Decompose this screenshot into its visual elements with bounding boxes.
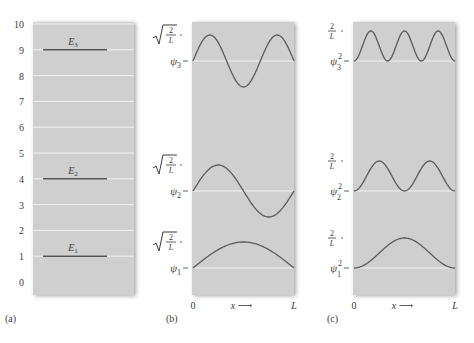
panel-c-plot (353, 22, 455, 295)
svg-text:2: 2 (330, 152, 334, 161)
y-tick-label: 0 (19, 277, 24, 288)
amplitude-label: 2L (153, 155, 182, 175)
curve-label: ψ1 (170, 262, 181, 277)
curve-label: ψ22 (330, 182, 342, 202)
curve-label: ψ21 (330, 259, 342, 279)
svg-text:2: 2 (169, 156, 173, 165)
y-tick-label: 10 (14, 19, 24, 30)
panel-b-plot (192, 22, 294, 295)
figure: 012345678910E1E2E3(a) ψ12Lψ22Lψ32L0x ⟶L(… (0, 0, 474, 343)
svg-text:2: 2 (330, 229, 334, 238)
svg-text:L: L (329, 32, 335, 41)
x-axis-label: x ⟶ (391, 300, 413, 311)
x-start-label: 0 (352, 300, 357, 311)
y-tick-label: 6 (19, 122, 24, 133)
amplitude-label: 2L (328, 152, 343, 171)
y-tick-label: 9 (19, 45, 24, 56)
svg-text:L: L (168, 166, 174, 175)
amplitude-label: 2L (153, 25, 182, 45)
panel-label: (c) (327, 313, 338, 325)
amplitude-label: 2L (153, 232, 182, 252)
y-tick-label: 5 (19, 148, 24, 159)
y-tick-label: 4 (19, 174, 24, 185)
x-start-label: 0 (191, 300, 196, 311)
x-end-label: L (451, 300, 458, 311)
y-tick-label: 2 (19, 225, 24, 236)
curve-label: ψ3 (170, 55, 181, 70)
svg-text:L: L (168, 36, 174, 45)
svg-text:L: L (168, 243, 174, 252)
svg-text:2: 2 (169, 233, 173, 242)
y-tick-label: 7 (19, 96, 24, 107)
svg-text:2: 2 (330, 22, 334, 31)
amplitude-label: 2L (328, 22, 343, 41)
svg-text:2: 2 (169, 26, 173, 35)
svg-text:L: L (329, 162, 335, 171)
panel-label: (b) (166, 313, 178, 325)
curve-label: ψ23 (330, 52, 342, 72)
svg-text:L: L (329, 239, 335, 248)
curve-label: ψ2 (170, 185, 181, 200)
x-end-label: L (290, 300, 297, 311)
y-tick-label: 8 (19, 71, 24, 82)
y-tick-label: 3 (19, 200, 24, 211)
y-tick-label: 1 (19, 251, 24, 262)
amplitude-label: 2L (328, 229, 343, 248)
x-axis-label: x ⟶ (230, 300, 252, 311)
panel-a-plot (33, 22, 134, 295)
panel-a-label: (a) (5, 313, 16, 325)
